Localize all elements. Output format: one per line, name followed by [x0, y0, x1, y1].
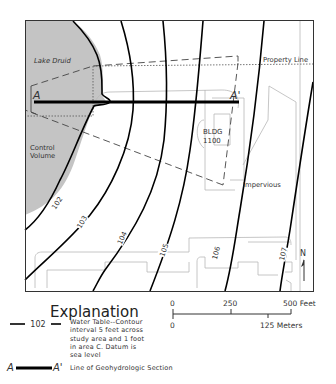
legend-line: Water Table--Contour	[70, 318, 144, 326]
svg-text:107: 107	[278, 247, 289, 262]
legend-contour-description: Water Table--Contour interval 5 feet acr…	[70, 318, 144, 359]
section-label-a-prime: A'	[229, 89, 241, 102]
north-arrow-icon: N	[300, 249, 306, 281]
svg-text:103: 103	[76, 214, 90, 230]
control-volume-label-1: Control	[30, 144, 55, 152]
legend-line: study area and 1 foot	[70, 335, 144, 343]
scale-feet-0: 0	[170, 299, 175, 308]
impervious-label: Impervious	[243, 181, 281, 189]
lake-druid-label: Lake Druid	[34, 57, 71, 65]
svg-text:A: A	[6, 362, 14, 373]
scale-bar	[173, 309, 291, 319]
lake-druid-area	[25, 21, 106, 215]
legend-contour-sample: 102	[10, 320, 61, 329]
legend-line: interval 5 feet across	[70, 326, 144, 334]
svg-text:N: N	[300, 249, 306, 258]
scale-feet-250: 250	[223, 299, 237, 308]
control-volume-label-2: Volume	[30, 152, 55, 160]
scale-meters-0: 0	[170, 321, 175, 330]
legend-section-description: Line of Geohydrologic Section	[70, 364, 173, 372]
section-label-a: A	[32, 89, 41, 102]
legend-line: in area C. Datum is	[70, 343, 144, 351]
scale-feet-500: 500 Feet	[283, 299, 316, 308]
property-line-label: Property Line	[263, 56, 308, 64]
svg-text:105: 105	[158, 243, 170, 258]
svg-text:102: 102	[30, 320, 45, 329]
legend-line: sea level	[70, 351, 144, 359]
legend-section-sample: A A'	[6, 362, 63, 373]
scale-meters-125: 125 Meters	[260, 321, 302, 330]
building-label-1: BLDG	[203, 128, 223, 136]
property-line	[93, 64, 313, 66]
building-label-2: 1100	[203, 137, 221, 145]
svg-text:A': A'	[52, 362, 63, 373]
